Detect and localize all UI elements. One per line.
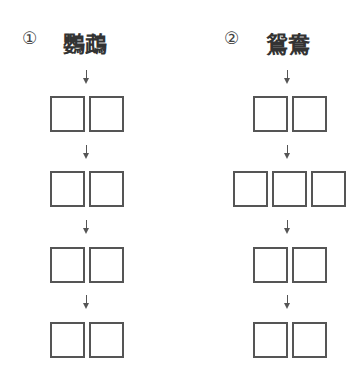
- answer-box[interactable]: [50, 247, 85, 283]
- item-2-answer-row-1: [253, 96, 327, 132]
- answer-box[interactable]: [253, 322, 288, 358]
- item-2-answer-row-3: [253, 247, 327, 283]
- answer-box[interactable]: [50, 322, 85, 358]
- answer-box[interactable]: [89, 171, 124, 207]
- answer-box[interactable]: [253, 96, 288, 132]
- answer-box[interactable]: [311, 171, 346, 207]
- item-1-number: ①: [22, 28, 37, 48]
- down-arrow-icon: [283, 145, 293, 159]
- down-arrow-icon: [82, 70, 92, 84]
- answer-box[interactable]: [50, 171, 85, 207]
- item-1-answer-row-3: [50, 247, 124, 283]
- answer-box[interactable]: [89, 322, 124, 358]
- answer-box[interactable]: [233, 171, 268, 207]
- item-1-answer-row-4: [50, 322, 124, 358]
- down-arrow-icon: [82, 295, 92, 309]
- down-arrow-icon: [82, 220, 92, 234]
- down-arrow-icon: [283, 220, 293, 234]
- item-2-answer-row-4: [253, 322, 327, 358]
- item-1-answer-row-2: [50, 171, 124, 207]
- answer-box[interactable]: [50, 96, 85, 132]
- answer-box[interactable]: [89, 96, 124, 132]
- answer-box[interactable]: [89, 247, 124, 283]
- down-arrow-icon: [82, 145, 92, 159]
- answer-box[interactable]: [292, 96, 327, 132]
- answer-box[interactable]: [253, 247, 288, 283]
- item-2-word: 鴛鴦: [266, 26, 310, 58]
- answer-box[interactable]: [292, 247, 327, 283]
- item-2-number: ②: [224, 28, 239, 48]
- item-1-word: 鸚鵡: [63, 26, 107, 58]
- down-arrow-icon: [283, 70, 293, 84]
- item-1-answer-row-1: [50, 96, 124, 132]
- down-arrow-icon: [283, 295, 293, 309]
- answer-box[interactable]: [292, 322, 327, 358]
- answer-box[interactable]: [272, 171, 307, 207]
- item-2-answer-row-2: [233, 171, 346, 207]
